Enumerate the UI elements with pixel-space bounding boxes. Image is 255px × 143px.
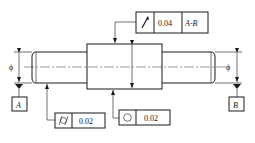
left-diameter-dimension: ϕ — [9, 52, 32, 83]
circularity-icon — [124, 114, 132, 122]
circular-runout-icon — [142, 16, 149, 28]
runout-datum-ref: A-B — [184, 19, 198, 28]
shaft-drawing: ϕ A ϕ B 0.04 A-B — [0, 0, 255, 143]
fcf-runout: 0.04 A-B — [115, 12, 208, 43]
diameter-symbol-left: ϕ — [9, 63, 13, 72]
datum-triangle-icon — [233, 84, 241, 89]
datum-b: B — [229, 84, 244, 111]
cylindricity-tolerance: 0.02 — [79, 117, 93, 126]
left-shaft — [32, 52, 87, 83]
datum-b-label: B — [233, 101, 238, 110]
datum-triangle-icon — [15, 84, 23, 89]
runout-tolerance: 0.04 — [158, 19, 172, 28]
right-shaft — [162, 52, 215, 83]
circularity-tolerance: 0.02 — [144, 114, 158, 123]
diameter-symbol-right: ϕ — [226, 63, 230, 72]
cylindricity-icon — [59, 116, 68, 125]
fcf-circularity: 0.02 — [113, 90, 170, 125]
central-body — [87, 44, 162, 89]
right-diameter-dimension: ϕ — [215, 52, 242, 83]
datum-a-label: A — [15, 101, 21, 110]
datum-a: A — [12, 84, 27, 111]
fcf-cylindricity: 0.02 — [47, 84, 105, 128]
